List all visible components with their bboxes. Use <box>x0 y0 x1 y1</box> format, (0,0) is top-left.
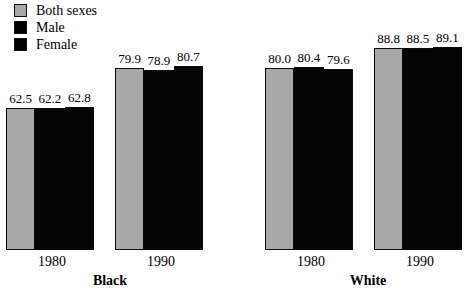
year-label-3: 1980 <box>265 255 357 269</box>
bar <box>6 108 35 251</box>
race-label-black: Black <box>60 274 160 288</box>
bar <box>115 68 144 250</box>
bar-group: 62.562.262.8 <box>6 0 94 252</box>
year-label-2: 1990 <box>115 255 207 269</box>
bar <box>144 70 173 250</box>
race-label-white: White <box>318 274 418 288</box>
year-label-1: 1980 <box>6 255 98 269</box>
bar <box>35 108 64 250</box>
bar <box>174 66 203 250</box>
year-label-4: 1990 <box>374 255 466 269</box>
bar-group: 88.888.589.1 <box>374 0 462 252</box>
bar <box>374 48 403 250</box>
bar-value-label: 80.7 <box>168 50 209 63</box>
bar <box>403 48 432 250</box>
bar <box>265 68 294 250</box>
plot-area: 62.562.262.879.978.980.780.080.479.688.8… <box>0 0 470 252</box>
bar-value-label: 89.1 <box>427 31 468 44</box>
bar <box>294 67 323 250</box>
bar <box>65 107 94 250</box>
bar-value-label: 79.6 <box>318 53 359 66</box>
bar-value-label: 62.8 <box>59 91 100 104</box>
bar <box>324 69 353 250</box>
bar <box>433 47 462 250</box>
bar-chart: Both sexes Male Female 62.562.262.879.97… <box>0 0 470 295</box>
bar-group: 80.080.479.6 <box>265 0 353 252</box>
bar-group: 79.978.980.7 <box>115 0 203 252</box>
